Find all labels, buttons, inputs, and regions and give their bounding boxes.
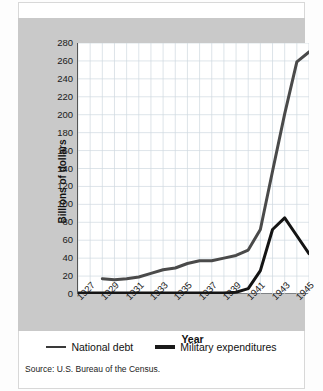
plot-svg [78,43,309,294]
y-axis-title: Billions of dollars [57,122,68,242]
source-note: Source: U.S. Bureau of the Census. [25,364,300,374]
legend-label: National debt [71,341,133,353]
legend-label: Military expenditures [180,341,276,353]
chart-legend: National debt Military expenditures [18,336,305,358]
chart-figure: 280260240220200180160140120100806040200 … [0,0,323,391]
y-axis-tick: 40 [62,253,73,263]
y-axis-tick: 280 [57,38,73,48]
x-axis-tick-labels: 1927192919311933193519371939194119431945 [77,295,312,335]
y-axis-tick: 0 [68,289,73,299]
chart-panel: 280260240220200180160140120100806040200 … [18,18,305,331]
plot-area [77,43,308,294]
legend-item-military-expenditures: Military expenditures [155,341,276,353]
y-axis-tick: 200 [57,110,73,120]
y-axis-tick: 260 [57,56,73,66]
legend-item-national-debt: National debt [46,341,133,353]
legend-line-icon [155,345,175,349]
y-axis-tick: 220 [57,92,73,102]
y-axis-tick: 20 [62,271,73,281]
y-axis-tick: 240 [57,74,73,84]
y-axis-title-wrap: Billions of dollars [38,58,54,288]
legend-line-icon [46,346,66,349]
